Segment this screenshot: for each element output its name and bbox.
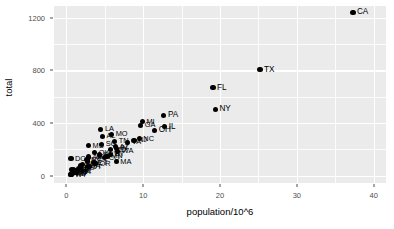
data-point-label: PA xyxy=(168,111,178,119)
data-point-label: WA xyxy=(122,148,134,155)
x-tick-label: 20 xyxy=(216,191,224,200)
data-point xyxy=(98,127,103,132)
data-point-label: NY xyxy=(219,105,230,113)
gridline-major-y xyxy=(54,70,386,71)
x-tick-label: 40 xyxy=(370,191,378,200)
gridline-major-x xyxy=(220,6,221,183)
gridline-minor-x xyxy=(258,6,259,183)
y-tick-mark xyxy=(50,175,53,176)
data-point xyxy=(100,134,105,139)
gridline-minor-x xyxy=(182,6,183,183)
gridline-major-x xyxy=(66,6,67,183)
y-tick-mark xyxy=(50,123,53,124)
y-tick-label: 0 xyxy=(41,171,45,180)
x-tick-label: 0 xyxy=(64,191,68,200)
gridline-minor-x xyxy=(335,6,336,183)
x-tick-mark xyxy=(143,184,144,187)
x-axis-title: population/10^6 xyxy=(54,206,386,217)
x-tick-label: 10 xyxy=(139,191,147,200)
x-tick-mark xyxy=(66,184,67,187)
plot-panel: CATXFLNYPAMIGAILLAOHMOALNCNJTNVASCMSAZIN… xyxy=(54,6,386,183)
x-tick-mark xyxy=(373,184,374,187)
y-tick-label: 400 xyxy=(32,119,45,128)
gridline-major-y xyxy=(54,18,386,19)
x-tick-mark xyxy=(296,184,297,187)
x-tick-mark xyxy=(220,184,221,187)
data-point xyxy=(68,156,73,161)
data-point xyxy=(210,85,215,90)
data-point xyxy=(161,113,166,118)
gridline-major-x xyxy=(374,6,375,183)
data-point-label: TX xyxy=(264,66,274,74)
data-point-label: OH xyxy=(159,126,171,134)
y-axis-title: total xyxy=(3,58,14,118)
data-point xyxy=(114,159,119,164)
data-point-label: WY xyxy=(75,171,87,178)
gridline-major-x xyxy=(297,6,298,183)
data-point-label: MA xyxy=(120,158,131,165)
x-tick-label: 30 xyxy=(293,191,301,200)
scatter-plot: CATXFLNYPAMIGAILLAOHMOALNCNJTNVASCMSAZIN… xyxy=(0,0,394,229)
data-point xyxy=(350,10,355,15)
y-tick-mark xyxy=(50,70,53,71)
data-point xyxy=(152,128,157,133)
data-point xyxy=(68,172,73,177)
data-point-label: FL xyxy=(217,83,227,91)
data-point-label: VA xyxy=(132,139,141,146)
data-point xyxy=(86,143,91,148)
gridline-major-y xyxy=(54,123,386,124)
y-tick-label: 800 xyxy=(32,66,45,75)
y-tick-mark xyxy=(50,17,53,18)
y-tick-label: 1200 xyxy=(28,13,45,22)
gridline-major-x xyxy=(143,6,144,183)
gridline-major-y xyxy=(54,176,386,177)
data-point-label: CA xyxy=(357,8,368,16)
data-point xyxy=(257,67,262,72)
data-point xyxy=(213,107,218,112)
